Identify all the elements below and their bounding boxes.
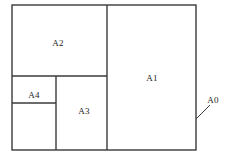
partition-diagram: A1 A2 A3 A4 A0: [0, 0, 235, 165]
diagram-canvas: [0, 0, 235, 165]
outer-boundary-rect: [12, 5, 196, 150]
callout-leader-line: [196, 105, 210, 119]
region-label-a1: A1: [146, 74, 157, 83]
callout-label-a0: A0: [207, 96, 218, 105]
region-label-a3: A3: [78, 107, 89, 116]
region-label-a4: A4: [28, 91, 39, 100]
region-label-a2: A2: [52, 39, 63, 48]
